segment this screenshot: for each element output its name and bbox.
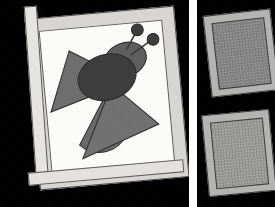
antenna-right-tip-dot [147,33,160,46]
mini-panel-interior-upper [211,17,271,90]
bee-artwork [40,21,175,175]
bee-artwork-svg [40,21,175,175]
fabric-texture-upper [213,18,271,88]
fabric-texture-lower [211,119,268,189]
right-bottom-framed-panel[interactable]: Lower small framed panel [203,108,275,204]
frame-mat [39,20,176,177]
mini-frame-upper [203,8,275,97]
scene-container: Bee appliqué quilt block in wooden frame… [0,0,275,207]
panel-divider [189,0,197,207]
mini-frame-lower [201,109,275,197]
left-framed-artwork[interactable]: Bee appliqué quilt block in wooden frame [12,0,190,206]
mini-panel-interior-lower [210,118,269,190]
antenna-left-tip-dot [131,23,144,36]
right-top-framed-panel[interactable]: Upper small framed panel [205,8,275,98]
right-bottom-label: Lower small framed panel [203,108,204,109]
right-top-label: Upper small framed panel [205,8,206,9]
